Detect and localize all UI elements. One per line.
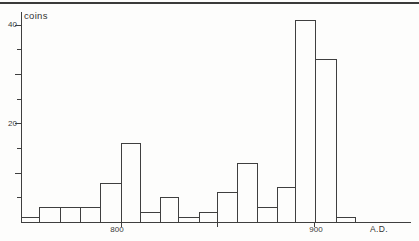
x-axis-line xyxy=(21,222,411,223)
y-axis-tick xyxy=(15,74,21,75)
histogram-bar xyxy=(160,197,179,222)
x-axis-tick xyxy=(121,222,122,227)
x-axis-tick xyxy=(217,222,218,227)
histogram-bar xyxy=(121,143,141,222)
y-axis-tick xyxy=(17,148,21,149)
x-tick-label-900: 900 xyxy=(304,225,328,234)
histogram-bar xyxy=(217,192,238,222)
histogram-bar xyxy=(140,212,161,222)
histogram-bar xyxy=(80,207,101,222)
y-axis-title: coins xyxy=(24,10,48,21)
histogram-bar xyxy=(178,217,200,222)
histogram-bar xyxy=(60,207,81,222)
y-axis-tick xyxy=(17,197,21,198)
x-axis-unit-label: A.D. xyxy=(370,224,388,234)
y-axis-tick xyxy=(15,123,21,124)
y-axis-tick xyxy=(17,49,21,50)
x-axis-tick xyxy=(314,222,315,227)
histogram-bar xyxy=(295,20,316,222)
histogram-bar xyxy=(21,217,40,222)
histogram-bar xyxy=(315,59,337,222)
coin-histogram: coins 40 20 800 900 A.D. xyxy=(0,0,419,241)
y-axis-tick xyxy=(15,25,21,26)
y-axis-tick xyxy=(15,173,21,174)
histogram-bar xyxy=(199,212,218,222)
x-tick-label-800: 800 xyxy=(105,225,129,234)
histogram-bar xyxy=(336,217,356,222)
scanned-figure: coins 40 20 800 900 A.D. xyxy=(0,0,419,241)
histogram-bar xyxy=(237,163,258,222)
y-axis-line xyxy=(21,12,22,222)
histogram-bar xyxy=(257,207,278,222)
histogram-bar xyxy=(39,207,61,222)
y-axis-tick xyxy=(17,99,21,100)
histogram-bar xyxy=(277,187,296,222)
histogram-bar xyxy=(100,183,122,222)
